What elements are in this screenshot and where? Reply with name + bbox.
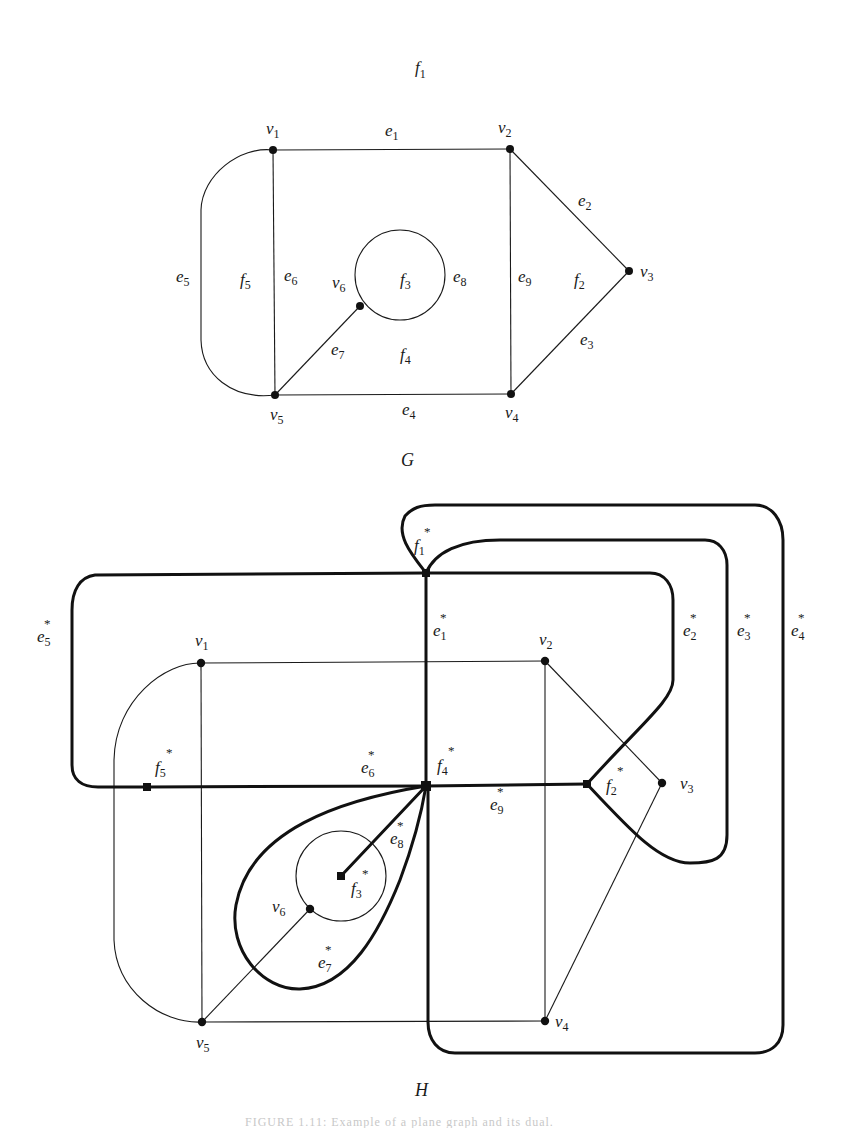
graph-h: v1 v2 v3 v4 v5 v6 f1 * f2 * f3 * f4 * f5… <box>37 505 805 1100</box>
edge-label-e8: e8 <box>453 267 467 289</box>
dual-vertex-label-f4: f4 * <box>437 743 455 778</box>
dual-edge-label-e2: e2 * <box>683 610 697 643</box>
primal-edge-e1 <box>201 661 545 663</box>
face-label-f3: f3 <box>400 270 411 292</box>
dual-edge-label-e3: e3 * <box>737 610 751 643</box>
vertex-label-v5: v5 <box>270 405 284 427</box>
dual-vertex-label-f3: f3 * <box>351 866 369 901</box>
vertex-v6 <box>306 905 314 913</box>
dual-edge-label-e9: e9 * <box>490 784 504 817</box>
edge-label-e5: e5 <box>176 267 190 289</box>
vertex-label-v3: v3 <box>680 774 694 796</box>
svg-text:*: * <box>424 524 431 539</box>
face-label-f1: f1 <box>415 58 426 81</box>
edge-e9 <box>510 149 511 394</box>
edge-label-e1: e1 <box>385 121 399 143</box>
graph-g: f1 v1 v2 v3 v4 v5 v6 e1 e2 e3 e4 e5 e6 e… <box>176 58 654 470</box>
svg-text:*: * <box>362 866 369 881</box>
svg-text:*: * <box>744 610 751 625</box>
svg-text:*: * <box>798 610 805 625</box>
svg-text:*: * <box>617 763 624 778</box>
svg-text:f1: f1 <box>414 536 425 558</box>
dual-vertex-label-f1: f1 * <box>414 524 431 558</box>
dual-vertex-label-f5: f5 * <box>155 745 173 780</box>
svg-text:f3: f3 <box>351 879 362 901</box>
vertex-v6 <box>356 302 364 310</box>
edge-e2 <box>510 149 629 271</box>
edge-e7 <box>275 306 360 395</box>
svg-text:*: * <box>397 818 404 833</box>
edge-e1 <box>273 149 510 150</box>
dual-edge-label-e6: e6 * <box>361 747 375 780</box>
dual-vertex-f3 <box>337 872 345 880</box>
dual-edge-e3 <box>426 540 727 863</box>
edge-e3 <box>511 271 629 394</box>
primal-edge-e4 <box>202 1021 545 1022</box>
vertex-label-v5: v5 <box>196 1033 210 1055</box>
svg-text:*: * <box>497 784 504 799</box>
vertex-label-v2: v2 <box>539 630 553 652</box>
dual-edge-e9 <box>426 784 587 786</box>
svg-text:f4: f4 <box>437 756 448 778</box>
primal-edge-e3 <box>545 783 662 1021</box>
dual-edge-e6 <box>147 786 426 787</box>
figure-caption: FIGURE 1.11: Example of a plane graph an… <box>245 1115 554 1128</box>
dual-edge-label-e7: e7 * <box>318 942 332 975</box>
svg-text:*: * <box>440 610 447 625</box>
dual-vertex-label-f2: f2 * <box>606 763 624 798</box>
vertex-v5 <box>198 1018 206 1026</box>
vertex-label-v6: v6 <box>272 897 286 919</box>
vertex-v3 <box>658 779 666 787</box>
svg-text:*: * <box>44 616 51 631</box>
edge-label-e4: e4 <box>402 400 416 422</box>
edge-label-e9: e9 <box>518 267 532 289</box>
vertex-v2 <box>506 145 514 153</box>
vertex-label-v1: v1 <box>266 119 280 141</box>
primal-edge-e7 <box>202 909 310 1022</box>
dual-edge-label-e1: e1 * <box>433 610 447 643</box>
vertex-v2 <box>541 657 549 665</box>
vertex-label-v3: v3 <box>640 262 654 284</box>
vertex-label-v4: v4 <box>555 1012 569 1034</box>
face-label-f5: f5 <box>240 270 251 292</box>
edge-label-e3: e3 <box>580 330 594 352</box>
svg-text:*: * <box>166 745 173 760</box>
primal-edge-e5 <box>114 663 202 1022</box>
dual-vertex-f1 <box>422 569 430 577</box>
svg-text:*: * <box>690 610 697 625</box>
face-label-f2: f2 <box>574 270 585 292</box>
vertex-v5 <box>271 391 279 399</box>
dual-edge-label-e5: e5 * <box>37 616 51 649</box>
vertex-v1 <box>269 146 277 154</box>
figure-canvas: f1 v1 v2 v3 v4 v5 v6 e1 e2 e3 e4 e5 e6 e… <box>0 0 847 1128</box>
svg-text:*: * <box>448 743 455 758</box>
graph-title-g: G <box>401 450 414 470</box>
vertex-v1 <box>197 659 205 667</box>
vertex-label-v2: v2 <box>498 118 512 140</box>
dual-vertex-f2 <box>583 780 591 788</box>
edge-label-e7: e7 <box>331 340 345 362</box>
dual-edge-label-e4: e4 * <box>791 610 805 643</box>
face-label-f4: f4 <box>400 345 411 367</box>
svg-text:f5: f5 <box>155 758 166 780</box>
svg-text:*: * <box>368 747 375 762</box>
vertex-label-v1: v1 <box>195 631 209 653</box>
edge-label-e2: e2 <box>578 191 592 213</box>
vertex-label-v6: v6 <box>332 273 346 295</box>
edge-label-e6: e6 <box>284 266 298 288</box>
vertex-v3 <box>625 267 633 275</box>
graph-title-h: H <box>414 1080 429 1100</box>
vertex-label-v4: v4 <box>505 403 519 425</box>
primal-edge-e6 <box>201 663 202 1022</box>
vertex-v4 <box>507 390 515 398</box>
dual-vertex-f5 <box>143 783 151 791</box>
edge-e4 <box>275 394 511 395</box>
svg-text:f2: f2 <box>606 776 617 798</box>
edge-e5 <box>201 150 275 396</box>
vertex-v4 <box>541 1017 549 1025</box>
edge-e6 <box>273 150 275 395</box>
svg-text:*: * <box>325 942 332 957</box>
dual-vertex-f4 <box>421 781 431 791</box>
dual-edge-e2 <box>426 573 673 784</box>
